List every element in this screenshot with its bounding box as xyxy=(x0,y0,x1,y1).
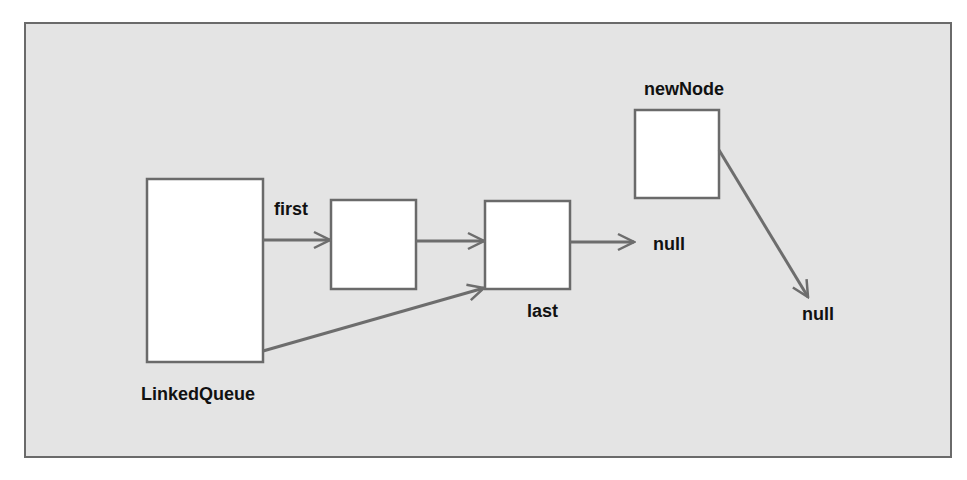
first-node-box xyxy=(331,200,416,289)
new-node-box xyxy=(635,110,719,198)
new-node-label: newNode xyxy=(644,79,724,99)
linked-queue-box xyxy=(147,179,263,362)
last-pointer-arrow xyxy=(263,288,484,351)
new-node-next-null-arrow xyxy=(719,150,808,297)
last-node-box xyxy=(485,201,570,289)
null-label-1: null xyxy=(653,234,685,254)
first-label: first xyxy=(274,199,308,219)
null-label-2: null xyxy=(802,304,834,324)
linked-queue-diagram: first last newNode LinkedQueue null null xyxy=(0,0,967,480)
last-label: last xyxy=(527,301,558,321)
linked-queue-label: LinkedQueue xyxy=(141,384,255,404)
